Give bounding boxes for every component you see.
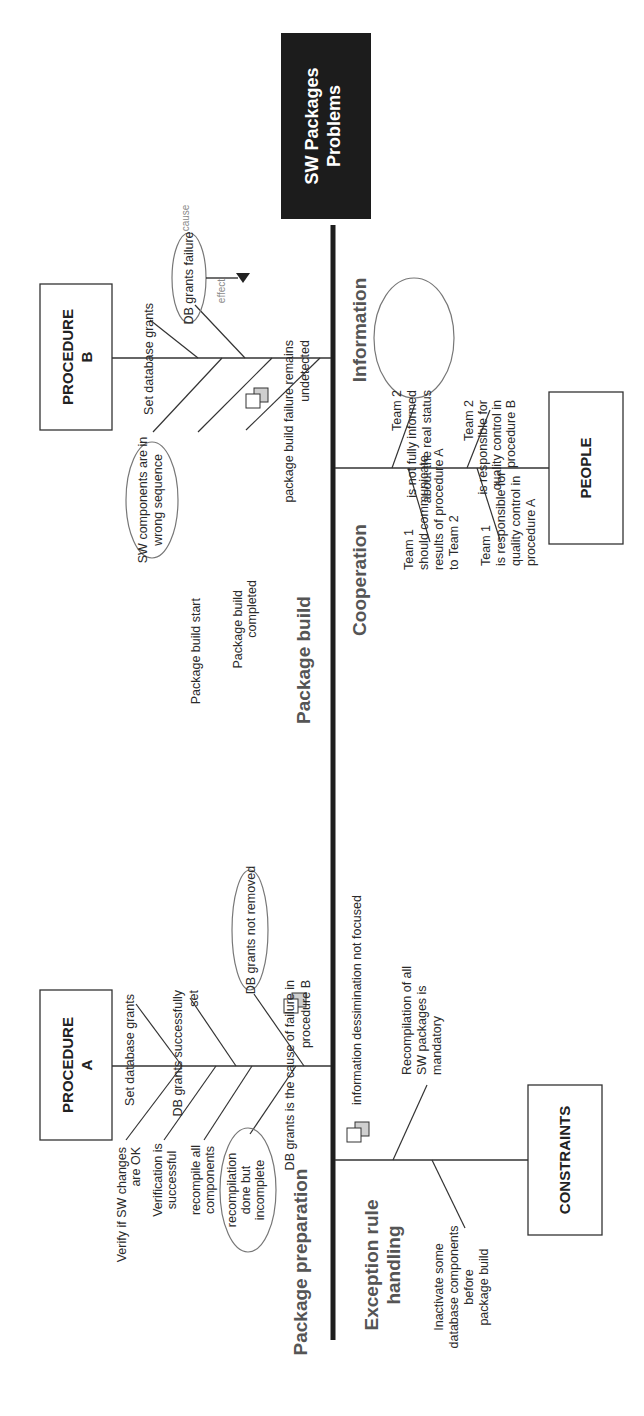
inactivate-line2: database components xyxy=(447,1225,461,1348)
cause-recompilation-line1: recompilation xyxy=(225,1153,239,1227)
cause-set-grants-a: Set database grants xyxy=(123,994,137,1106)
cause-grants-set-line2: set xyxy=(187,989,201,1006)
team1-resp-line2: is responsible for xyxy=(494,472,508,567)
recompilation-mandatory-line3: mandatory xyxy=(430,1015,444,1075)
cause-sw-components-line2: wrong sequence xyxy=(151,454,165,547)
cause-verification-line1: Verification is xyxy=(151,1143,165,1217)
arrow-icon xyxy=(236,273,250,283)
problem-head: SW Packages Problems xyxy=(281,33,371,219)
cause-set-grants-b: Set database grants xyxy=(142,303,156,415)
team1-comm-line1: Team 1 xyxy=(402,529,416,570)
category-exception-line2: handling xyxy=(383,1225,404,1304)
cause-build-start: Package build start xyxy=(189,597,203,704)
recompilation-mandatory-line1: Recompilation of all xyxy=(400,966,414,1075)
effect-text-line1: package build failure remains xyxy=(282,340,296,503)
effect-text-line2: undetected xyxy=(298,340,312,402)
category-package-preparation: Package preparation xyxy=(290,1169,311,1356)
cause-label: cause xyxy=(180,204,191,231)
head-title-line1: SW Packages xyxy=(302,67,322,184)
info-not-focused: information dessimination not focused xyxy=(350,895,364,1105)
note-icon xyxy=(246,388,268,408)
cause-verification-line2: successful xyxy=(165,1151,179,1209)
cause-grants-cause-line1: DB grants is the cause of failure in xyxy=(283,980,297,1170)
team2-resp-line1: Team 2 xyxy=(462,400,476,441)
category-cooperation: Cooperation xyxy=(349,524,370,636)
effect-label: effect xyxy=(216,279,227,303)
inactivate-line1: Inactivate some xyxy=(432,1243,446,1331)
cause-db-grants-failure: DB grants failure xyxy=(182,231,196,324)
team1-comm-line3: results of procedure A xyxy=(432,448,446,570)
highlight-ellipse xyxy=(374,278,454,398)
procedure-a-label-line2: A xyxy=(78,1059,95,1070)
cause-grants-cause-line2: procedure B xyxy=(299,980,313,1048)
inactivate-line4: package build xyxy=(477,1248,491,1325)
category-package-build: Package build xyxy=(293,596,314,724)
fishbone-diagram: SW Packages Problems PROCEDURE B Set dat… xyxy=(0,0,644,1416)
cause-build-completed-line2: completed xyxy=(245,580,259,638)
cause-recompilation-line2: done but xyxy=(239,1165,253,1214)
team2-resp-line4: procedure B xyxy=(504,400,518,468)
procedure-b-label-line1: PROCEDURE xyxy=(59,309,76,405)
constraints-label: CONSTRAINTS xyxy=(556,1106,573,1214)
cause-grants-set-line1: DB grants successfully xyxy=(171,989,185,1116)
cause-recompile-line1: recompile all xyxy=(189,1145,203,1215)
team1-comm-line4: to Team 2 xyxy=(447,515,461,570)
team1-resp-line4: procedure A xyxy=(524,498,538,566)
cause-build-completed-line1: Package build xyxy=(231,590,245,669)
cause-verify-line1: Verify if SW changes xyxy=(115,1147,129,1262)
cause-verify-line2: are OK xyxy=(129,1146,143,1186)
head-title-line2: Problems xyxy=(324,85,344,167)
cause-sw-components-line1: SW components are in xyxy=(136,437,150,563)
cause-recompile-line2: components xyxy=(203,1146,217,1214)
team2-resp-line2: is responsible for xyxy=(476,400,490,495)
team2-info-line1: Team 2 xyxy=(390,390,404,431)
category-information: Information xyxy=(349,278,370,383)
team1-resp-line1: Team 1 xyxy=(479,525,493,566)
note-icon xyxy=(347,1122,369,1142)
cause-grants-not-removed: DB grants not removed xyxy=(244,866,258,995)
team1-comm-line2: should communicate xyxy=(417,455,431,570)
category-exception-line1: Exception rule xyxy=(361,1200,382,1331)
team1-resp-line3: quality control in xyxy=(509,476,523,566)
procedure-a-label-line1: PROCEDURE xyxy=(59,1017,76,1113)
cause-recompilation-line3: incomplete xyxy=(253,1160,267,1220)
procedure-b-label-line2: B xyxy=(78,351,95,362)
inactivate-line3: before xyxy=(462,1269,476,1304)
people-label: PEOPLE xyxy=(577,438,594,499)
recompilation-mandatory-line2: SW packages is xyxy=(415,985,429,1075)
